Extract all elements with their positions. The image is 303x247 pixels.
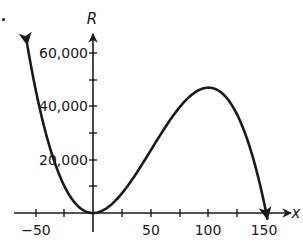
x-axis-label: x — [291, 204, 301, 222]
data-curve — [27, 44, 267, 218]
y-tick-label-40000: 40,000 — [39, 98, 88, 114]
x-tick-label-50: 50 — [142, 222, 160, 238]
y-tick-label-20000: 20,000 — [39, 152, 88, 168]
x-tick-label-150: 150 — [251, 222, 278, 238]
y-tick-label-60000: 60,000 — [39, 45, 88, 61]
chart: −50 50 100 150 20,000 40,000 60,000 R x — [0, 0, 303, 247]
x-tick-label-neg50: −50 — [21, 222, 51, 238]
y-axis-label: R — [87, 10, 97, 28]
x-tick-label-100: 100 — [195, 222, 222, 238]
